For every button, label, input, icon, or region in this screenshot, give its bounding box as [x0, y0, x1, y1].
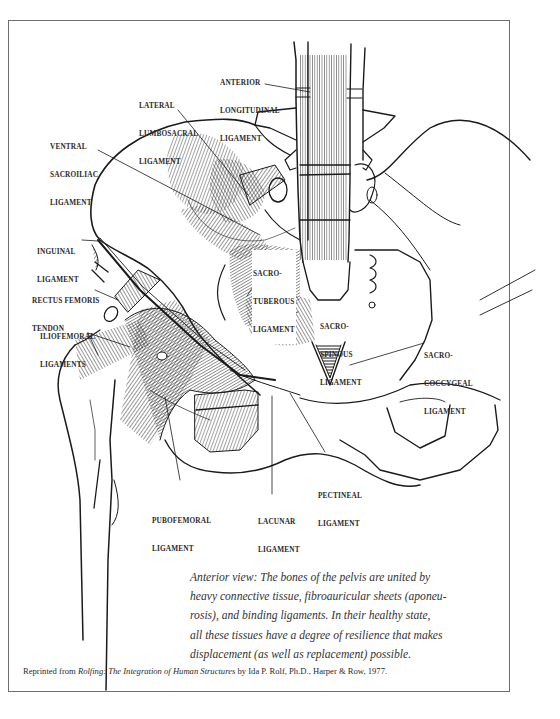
label-line: LIGAMENT: [152, 544, 211, 553]
right-ilium: [367, 120, 535, 315]
label-ventral-sacroiliac-ligament: VENTRAL SACROILIAC LIGAMENT: [50, 123, 98, 217]
label-line: SPINOUS: [320, 350, 362, 359]
label-pectineal-ligament: PECTINEAL LIGAMENT: [318, 472, 362, 538]
label-line: LIGAMENT: [258, 545, 300, 554]
label-line: LIGAMENT: [318, 519, 362, 528]
label-line: LUMBOSACRAL: [139, 129, 198, 138]
label-lateral-lumbosacral-ligament: LATERAL LUMBOSACRAL LIGAMENT: [139, 82, 198, 176]
label-sacrotuberous-ligament: SACRO- TUBEROUS LIGAMENT: [252, 250, 296, 344]
label-sacrospinous-ligament: SACRO- SPINOUS LIGAMENT: [320, 303, 362, 397]
label-lacunar-ligament: LACUNAR LIGAMENT: [258, 498, 300, 564]
label-line: LONGITUDINAL: [220, 106, 280, 115]
label-line: LIGAMENTS: [40, 360, 95, 369]
label-anterior-longitudinal-ligament: ANTERIOR LONGITUDINAL LIGAMENT: [220, 59, 280, 153]
label-line: LIGAMENT: [424, 407, 473, 416]
label-line: TUBEROUS: [253, 297, 295, 306]
label-line: LIGAMENT: [320, 378, 362, 387]
label-line: RECTUS FEMORIS: [32, 296, 100, 305]
label-line: LIGAMENT: [253, 325, 295, 334]
credit-suffix: by Ida P. Rolf, Ph.D., Harper & Row, 197…: [235, 666, 387, 676]
label-line: ANTERIOR: [220, 78, 280, 87]
label-line: SACROILIAC: [50, 170, 98, 179]
label-line: LACUNAR: [258, 517, 300, 526]
credit-book-title: Rolfing: The Integration of Human Struct…: [78, 666, 235, 676]
label-line: SACRO-: [253, 269, 295, 278]
label-line: INGUINAL: [37, 247, 79, 256]
label-line: SACRO-: [320, 322, 362, 331]
credit-prefix: Reprinted from: [23, 666, 78, 676]
label-iliofemoral-ligaments: ILIOFEMORAL LIGAMENTS: [40, 313, 95, 379]
label-line: SACRO-: [424, 351, 473, 360]
label-sacrococcygeal-ligament: SACRO- COCCYGEAL LIGAMENT: [424, 332, 473, 426]
femur: [58, 330, 118, 690]
label-line: LATERAL: [139, 101, 198, 110]
label-pubofemoral-ligament: PUBOFEMORAL LIGAMENT: [152, 497, 211, 563]
label-line: PUBOFEMORAL: [152, 516, 211, 525]
caption-line: heavy connective tissue, fibroauricular …: [190, 587, 465, 606]
caption-line: Anterior view: The bones of the pelvis a…: [190, 568, 465, 587]
caption-line: all these tissues have a degree of resil…: [190, 626, 465, 645]
label-line: LIGAMENT: [220, 134, 280, 143]
caption-line: rosis), and binding ligaments. In their …: [190, 606, 465, 625]
label-line: COCCYGEAL: [424, 379, 473, 388]
caption-line: displacement (as well as replacement) po…: [190, 645, 465, 664]
label-line: VENTRAL: [50, 142, 98, 151]
label-line: LIGAMENT: [139, 157, 198, 166]
label-line: ILIOFEMORAL: [40, 332, 95, 341]
label-line: PECTINEAL: [318, 491, 362, 500]
label-line: LIGAMENT: [50, 198, 98, 207]
source-credit: Reprinted from Rolfing: The Integration …: [23, 666, 387, 676]
figure-caption: Anterior view: The bones of the pelvis a…: [190, 568, 465, 664]
